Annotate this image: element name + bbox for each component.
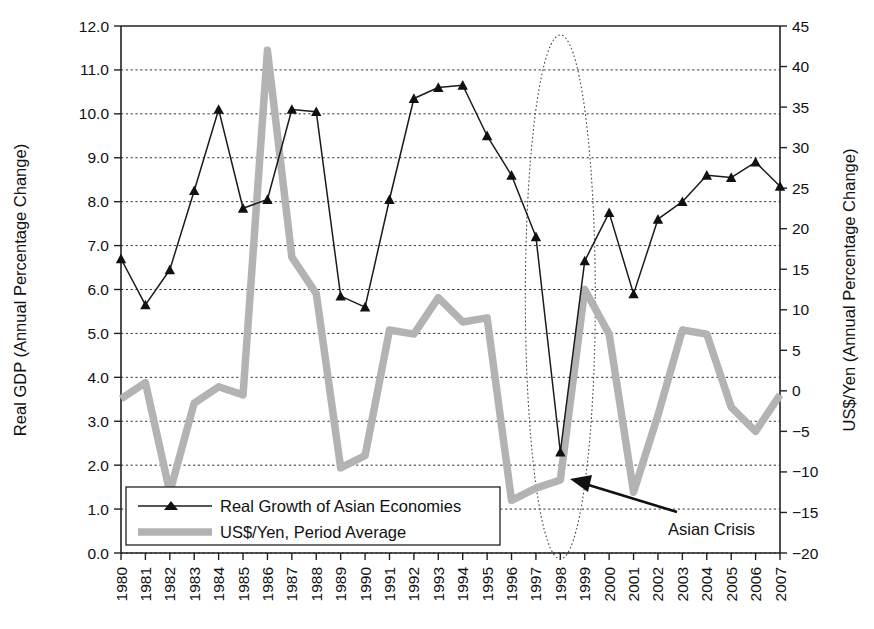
x-axis-tick-labels: 1980198119821983198419851986198719881989…: [113, 567, 789, 602]
x-axis-tick-label: 1988: [308, 567, 325, 601]
right-axis-tick-label: 5: [792, 342, 801, 359]
right-axis-tick-label: 40: [792, 58, 810, 75]
right-axis-tick-labels: −20−15−10−5051015202530354045: [792, 18, 819, 562]
right-axis-tick-label: 35: [792, 99, 809, 116]
left-axis-tick-label: 10.0: [79, 105, 110, 122]
x-axis-tick-label: 2004: [698, 567, 715, 602]
left-axis-tick-label: 0.0: [87, 545, 109, 562]
x-axis-tick-label: 1997: [527, 567, 544, 601]
x-axis-tick-label: 2003: [674, 567, 691, 601]
x-axis-tick-label: 2005: [723, 567, 740, 601]
x-axis-tick-label: 1990: [357, 567, 374, 602]
data-point-marker: [360, 302, 370, 312]
right-axis-tick-label: −15: [792, 504, 818, 521]
right-axis-tick-label: −5: [792, 423, 810, 440]
x-axis-tick-label: 1987: [283, 567, 300, 601]
data-point-marker: [384, 194, 394, 204]
data-point-marker: [189, 185, 199, 195]
left-axis-tick-label: 7.0: [87, 237, 109, 254]
x-axis-tick-label: 1985: [235, 567, 252, 601]
x-axis-tick-label: 2006: [747, 567, 764, 601]
left-axis-tick-label: 12.0: [79, 18, 110, 35]
x-axis-tick-label: 1998: [552, 567, 569, 601]
data-point-marker: [628, 289, 638, 299]
data-point-marker: [116, 254, 126, 264]
x-axis-tick-label: 1983: [186, 567, 203, 601]
data-point-marker: [506, 170, 516, 180]
data-point-marker: [750, 157, 760, 167]
x-axis-tick-label: 2002: [649, 567, 666, 601]
chart-container: 1980198119821983198419851986198719881989…: [0, 0, 874, 629]
data-point-marker: [482, 131, 492, 141]
x-axis-tick-label: 1994: [454, 567, 471, 602]
series-us-dollar-yen: [121, 50, 780, 500]
right-axis-title: US$/Yen (Annual Percentage Change): [840, 149, 858, 432]
x-axis-tick-label: 2001: [625, 567, 642, 601]
right-axis-tick-label: 30: [792, 139, 810, 156]
right-axis-tick-label: 10: [792, 301, 810, 318]
left-axis-tick-label: 3.0: [87, 413, 109, 430]
asian-crisis-annotation: Asian Crisis: [570, 475, 755, 538]
legend-label-real-growth: Real Growth of Asian Economies: [220, 497, 461, 515]
left-axis-tick-labels: 0.01.02.03.04.05.06.07.08.09.010.011.012…: [79, 18, 110, 562]
x-axis-tick-label: 1984: [210, 567, 227, 602]
left-axis-title: Real GDP (Annual Percentage Change): [11, 144, 29, 436]
left-axis-ticks: [114, 26, 121, 553]
data-point-marker: [262, 194, 272, 204]
data-point-marker: [140, 300, 150, 310]
x-axis-tick-label: 1989: [332, 567, 349, 601]
x-axis-tick-label: 1991: [381, 567, 398, 601]
left-axis-tick-label: 8.0: [87, 193, 109, 210]
series-asian-gdp-growth-markers: [116, 80, 785, 456]
data-point-marker: [213, 104, 223, 114]
asian-crisis-arrow-head: [570, 475, 592, 492]
data-point-marker: [238, 203, 248, 213]
data-point-marker: [653, 214, 663, 224]
dual-axis-line-chart: 1980198119821983198419851986198719881989…: [0, 0, 874, 629]
left-axis-tick-label: 11.0: [80, 61, 109, 78]
left-axis-tick-label: 9.0: [87, 149, 109, 166]
x-axis-tick-label: 2000: [601, 567, 618, 602]
asian-crisis-label: Asian Crisis: [668, 520, 755, 538]
right-axis-tick-label: 20: [792, 220, 810, 237]
x-axis-tick-label: 2007: [772, 567, 789, 601]
right-axis-tick-label: −20: [792, 545, 819, 562]
right-axis-tick-label: −10: [792, 463, 819, 480]
right-axis-ticks: [780, 26, 787, 553]
left-axis-tick-label: 4.0: [87, 369, 109, 386]
x-axis-tick-label: 1993: [430, 567, 447, 601]
legend-label-usd-yen: US$/Yen, Period Average: [220, 523, 406, 541]
x-axis-ticks: [121, 553, 780, 560]
series-us-dollar-yen-line: [121, 50, 780, 500]
right-axis-tick-label: 25: [792, 180, 809, 197]
data-point-marker: [604, 207, 614, 217]
x-axis-tick-label: 1999: [576, 567, 593, 601]
data-point-marker: [531, 232, 541, 242]
x-axis-tick-label: 1996: [503, 567, 520, 601]
left-axis-tick-label: 6.0: [87, 281, 109, 298]
x-axis-tick-label: 1981: [137, 567, 154, 601]
data-point-marker: [580, 256, 590, 266]
right-axis-tick-label: 15: [792, 261, 809, 278]
x-axis-tick-label: 1980: [113, 567, 130, 602]
left-axis-tick-label: 2.0: [87, 457, 109, 474]
data-point-marker: [165, 265, 175, 275]
data-point-marker: [409, 93, 419, 103]
x-axis-tick-label: 1986: [259, 567, 276, 601]
series-asian-gdp-growth: [116, 80, 785, 456]
left-axis-tick-label: 5.0: [87, 325, 109, 342]
right-axis-tick-label: 0: [792, 382, 801, 399]
series-asian-gdp-growth-line: [121, 85, 780, 452]
x-axis-tick-label: 1982: [161, 567, 178, 601]
data-point-marker: [335, 291, 345, 301]
chart-legend: Real Growth of Asian Economies US$/Yen, …: [126, 487, 500, 545]
right-axis-tick-label: 45: [792, 18, 809, 35]
x-axis-tick-label: 1995: [479, 567, 496, 601]
left-axis-tick-label: 1.0: [87, 501, 109, 518]
x-axis-tick-label: 1992: [405, 567, 422, 601]
